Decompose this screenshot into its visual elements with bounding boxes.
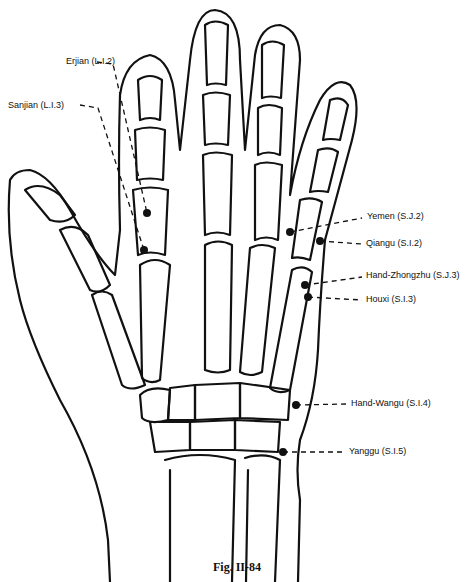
point-sanjian <box>140 246 148 254</box>
label-hand-zhongzhu: Hand-Zhongzhu (S.J.3) <box>366 270 460 280</box>
hand-acupoint-diagram: Erjian (L.I.2) Sanjian (L.I.3) Yemen (S.… <box>0 0 474 582</box>
label-sanjian: Sanjian (L.I.3) <box>8 100 64 110</box>
figure-caption: Fig. II-84 <box>0 560 474 575</box>
label-erjian: Erjian (L.I.2) <box>66 56 115 66</box>
point-erjian <box>143 209 151 217</box>
label-yemen: Yemen (S.J.2) <box>367 211 424 221</box>
label-yanggu: Yanggu (S.I.5) <box>349 446 406 456</box>
label-houxi: Houxi (S.I.3) <box>366 294 416 304</box>
point-houxi <box>304 293 312 301</box>
label-hand-wangu: Hand-Wangu (S.I.4) <box>351 398 431 408</box>
point-yanggu <box>279 448 287 456</box>
hand-skeleton-illustration <box>0 0 474 582</box>
point-hand-wangu <box>292 401 300 409</box>
point-hand-zhongzhu <box>301 281 309 289</box>
point-qiangu <box>316 237 324 245</box>
label-qiangu: Qiangu (S.I.2) <box>366 238 422 248</box>
point-yemen <box>286 228 294 236</box>
